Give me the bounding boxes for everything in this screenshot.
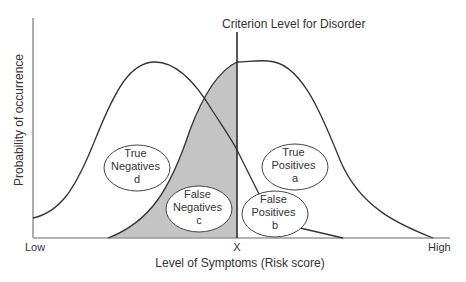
false-positives-tail (300, 228, 343, 238)
fn-letter: c (196, 214, 202, 226)
tp-letter: a (292, 172, 299, 184)
fn-line2: Negatives (173, 201, 222, 213)
x-axis-label: Level of Symptoms (Risk score) (155, 256, 324, 270)
fn-line1: False (184, 188, 211, 200)
fp-line2: Positives (251, 206, 296, 218)
diagram-canvas: True Negatives d True Positives a False … (0, 0, 466, 282)
tn-letter: d (134, 173, 140, 185)
tn-line1: True (124, 147, 146, 159)
fp-letter: b (272, 219, 278, 231)
criterion-title: Criterion Level for Disorder (222, 17, 365, 31)
tn-line2: Negatives (111, 160, 160, 172)
x-tick-criterion: X (233, 241, 241, 253)
tp-line2: Positives (271, 159, 316, 171)
x-tick-high: High (428, 241, 451, 253)
y-axis-label: Probability of occurrence (12, 54, 26, 186)
fp-line1: False (260, 193, 287, 205)
x-tick-low: Low (25, 241, 45, 253)
tp-line1: True (282, 146, 304, 158)
